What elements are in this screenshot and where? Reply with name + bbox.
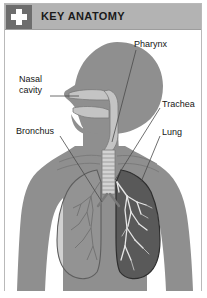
label-trachea: Trachea bbox=[162, 99, 195, 110]
key-anatomy-panel: KEY ANATOMY bbox=[4, 3, 202, 291]
medical-cross-icon bbox=[6, 5, 32, 29]
trachea bbox=[102, 150, 115, 194]
label-bronchus: Bronchus bbox=[16, 126, 54, 137]
panel-header: KEY ANATOMY bbox=[5, 4, 201, 30]
anatomy-figure: Pharynx Nasal cavity Trachea Bronchus Lu… bbox=[5, 30, 201, 291]
label-nasal-cavity: Nasal cavity bbox=[19, 74, 42, 96]
label-nasal-cavity-line1: Nasal bbox=[19, 74, 42, 85]
panel-title: KEY ANATOMY bbox=[41, 10, 125, 22]
label-pharynx: Pharynx bbox=[134, 39, 167, 50]
label-nasal-cavity-line2: cavity bbox=[19, 85, 42, 96]
label-lung: Lung bbox=[162, 127, 182, 138]
